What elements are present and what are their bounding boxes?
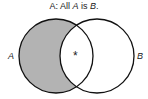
label-b: B [137,51,143,61]
asterisk-mark: * [73,49,78,63]
circle-b [60,19,134,93]
label-a: A [8,51,14,61]
